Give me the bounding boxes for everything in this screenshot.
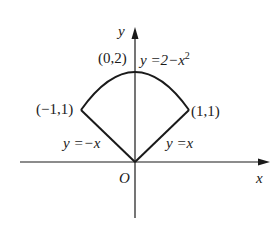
diagram-graphics — [0, 0, 276, 239]
parabola-label: y =2−x2 — [140, 51, 190, 68]
x-axis-arrow-icon — [258, 159, 270, 166]
origin-label: O — [119, 171, 130, 186]
parabola-exponent: 2 — [185, 50, 190, 61]
line-pos-label: y =x — [166, 136, 193, 151]
point-label-left: (−1,1) — [36, 102, 73, 117]
x-axis-label: x — [256, 171, 263, 186]
point-label-peak: (0,2) — [98, 51, 127, 66]
y-axis-arrow-icon — [132, 27, 139, 39]
parabola-equation: y =2−x — [140, 52, 185, 68]
y-axis-label: y — [118, 24, 125, 39]
point-label-right: (1,1) — [191, 104, 220, 119]
line-neg-label: y =−x — [63, 136, 100, 151]
diagram-canvas: y (0,2) y =2−x2 (−1,1) (1,1) y =−x y =x … — [0, 0, 276, 239]
